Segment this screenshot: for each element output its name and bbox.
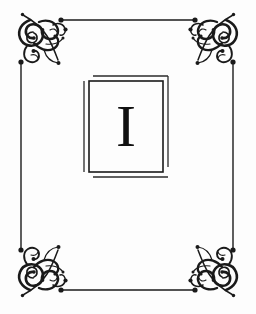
ball-terminal-left-top bbox=[18, 59, 23, 64]
ball-terminal-bottom-right bbox=[192, 287, 197, 292]
ball-terminal-left-bottom bbox=[18, 247, 23, 252]
panel-box bbox=[89, 81, 163, 172]
ball-terminal-bottom-left bbox=[58, 287, 63, 292]
ball-terminal-top-left bbox=[58, 17, 63, 22]
ball-terminal-top-right bbox=[192, 17, 197, 22]
ball-terminal-right-top bbox=[230, 59, 235, 64]
ornamental-border-artwork bbox=[0, 0, 256, 314]
decorative-title-page: I bbox=[0, 0, 256, 314]
initial-letter-panel bbox=[84, 76, 168, 177]
